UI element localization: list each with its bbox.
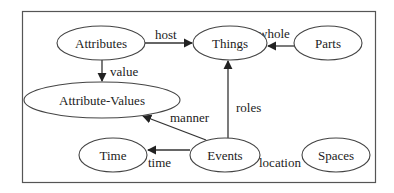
node-things: Things: [193, 26, 267, 60]
edge-label-value: value: [110, 64, 138, 79]
node-spaces: Spaces: [302, 138, 370, 172]
ontology-diagram: host whole value roles manner time locat…: [0, 0, 394, 193]
node-label-spaces: Spaces: [318, 148, 354, 163]
node-label-time: Time: [100, 148, 127, 163]
node-events: Events: [190, 138, 260, 172]
edge-label-host: host: [155, 27, 177, 42]
node-time: Time: [79, 138, 147, 172]
edge-label-time: time: [148, 155, 171, 170]
edge-label-roles: roles: [236, 100, 261, 115]
node-label-attribute-values: Attribute-Values: [59, 93, 145, 108]
node-label-things: Things: [212, 36, 248, 51]
node-label-attributes: Attributes: [75, 36, 127, 51]
node-label-events: Events: [207, 148, 242, 163]
node-parts: Parts: [294, 26, 362, 60]
edge-label-manner: manner: [170, 110, 210, 125]
node-label-parts: Parts: [315, 36, 341, 51]
node-attributes: Attributes: [57, 26, 145, 60]
node-attribute-values: Attribute-Values: [24, 82, 180, 118]
edge-label-location: location: [259, 155, 301, 170]
